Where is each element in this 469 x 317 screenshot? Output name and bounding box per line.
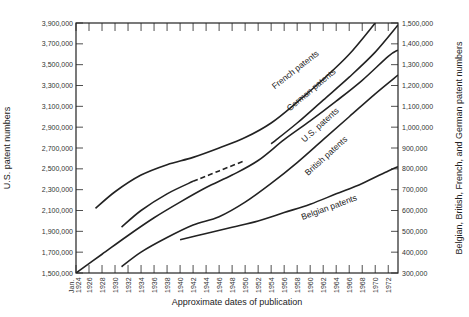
patent-numbers-chart: Jan.192419261928193019321934193619381940… (0, 0, 469, 317)
x-tick-label: 1926 (86, 277, 93, 293)
right-tick-label: 400,000 (402, 249, 427, 256)
right-tick-label: 700,000 (402, 186, 427, 193)
left-tick-label: 2,500,000 (42, 165, 73, 172)
u-s-patents-curve (76, 50, 398, 273)
x-tick-label: 1968 (359, 277, 366, 293)
x-tick-label: Jan. (68, 280, 75, 293)
x-tick-label: 1934 (138, 277, 145, 293)
left-axis-title: U.S. patent numbers (2, 106, 12, 189)
german-patents-curve-dashed (193, 161, 245, 182)
belgian-patents-curve (180, 167, 398, 240)
x-tick-label: 1942 (190, 277, 197, 293)
left-tick-label: 3,300,000 (42, 82, 73, 89)
right-tick-label: 600,000 (402, 207, 427, 214)
x-tick-label: 1970 (372, 277, 379, 293)
right-tick-label: 500,000 (402, 228, 427, 235)
right-tick-label: 1,000,000 (402, 124, 433, 131)
x-tick-label: 1950 (242, 277, 249, 293)
x-tick-label: 1932 (125, 277, 132, 293)
x-tick-label: 1960 (307, 277, 314, 293)
left-tick-label: 3,900,000 (42, 20, 73, 27)
left-tick-label: 2,100,000 (42, 207, 73, 214)
right-tick-label: 1,300,000 (402, 61, 433, 68)
right-tick-label: 800,000 (402, 165, 427, 172)
german-patents-curve (271, 25, 398, 144)
right-tick-label: 1,500,000 (402, 20, 433, 27)
x-tick-label: 1938 (164, 277, 171, 293)
x-axis-title: Approximate dates of publication (172, 297, 303, 307)
left-tick-label: 1,900,000 (42, 228, 73, 235)
left-tick-label: 3,500,000 (42, 61, 73, 68)
x-tick-label: 1930 (112, 277, 119, 293)
right-tick-label: 1,200,000 (402, 82, 433, 89)
x-tick-label: 1952 (255, 277, 262, 293)
left-tick-label: 3,700,000 (42, 40, 73, 47)
x-tick-label: 1940 (177, 277, 184, 293)
left-tick-label: 1,700,000 (42, 249, 73, 256)
left-tick-label: 2,900,000 (42, 124, 73, 131)
x-tick-label: 1966 (346, 277, 353, 293)
left-tick-label: 2,700,000 (42, 145, 73, 152)
german-patents-curve (122, 181, 194, 227)
x-tick-label: 1946 (216, 277, 223, 293)
left-tick-label: 3,100,000 (42, 103, 73, 110)
x-tick-label: 1954 (268, 277, 275, 293)
x-tick-label: 1972 (385, 277, 392, 293)
x-tick-label: 1936 (151, 277, 158, 293)
right-tick-label: 300,000 (402, 270, 427, 277)
right-axis-title: Belgian, British, French, and German pat… (454, 41, 464, 255)
x-tick-label: 1964 (333, 277, 340, 293)
x-tick-label: 1928 (99, 277, 106, 293)
left-tick-label: 1,500,000 (42, 270, 73, 277)
right-tick-label: 1,400,000 (402, 40, 433, 47)
x-tick-label: 1956 (281, 277, 288, 293)
x-tick-label: 1958 (294, 277, 301, 293)
x-tick-label: 1962 (320, 277, 327, 293)
left-tick-label: 2,300,000 (42, 186, 73, 193)
right-tick-label: 1,100,000 (402, 103, 433, 110)
x-tick-label: 1924 (75, 277, 82, 293)
plot-frame (76, 23, 398, 273)
x-tick-label: 1948 (229, 277, 236, 293)
x-tick-label: 1944 (203, 277, 210, 293)
british-patents-curve (122, 75, 398, 267)
right-tick-label: 900,000 (402, 145, 427, 152)
